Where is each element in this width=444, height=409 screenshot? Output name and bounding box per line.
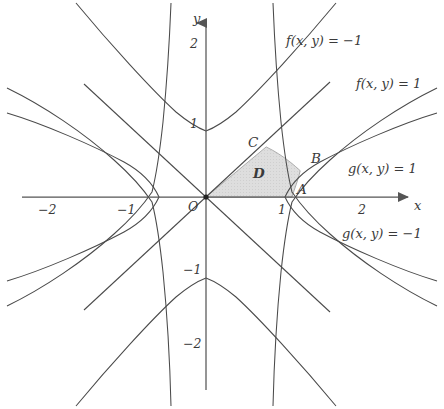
curve-label-g-equals-1: g(x, y) = 1 bbox=[348, 161, 417, 176]
point-label-a: A bbox=[297, 181, 307, 197]
figure-canvas bbox=[0, 0, 444, 409]
x-tick-1: 1 bbox=[278, 202, 286, 217]
x-axis-label: x bbox=[414, 198, 421, 213]
hyperbola-figure: x y O −2 −1 1 2 2 1 −1 −2 f(x, y) = −1 f… bbox=[0, 0, 444, 409]
y-axis-label: y bbox=[193, 11, 200, 26]
y-tick-minus-2: −2 bbox=[183, 336, 201, 351]
curve-label-f-equals-1: f(x, y) = 1 bbox=[356, 76, 421, 91]
region-label-d: D bbox=[253, 165, 265, 181]
x-tick-minus-1: −1 bbox=[117, 202, 135, 217]
curve-f-equals-1-lower-left bbox=[7, 3, 171, 306]
point-label-c: C bbox=[248, 134, 258, 150]
origin-dot bbox=[203, 194, 208, 199]
point-label-b: B bbox=[311, 150, 321, 166]
curve-label-g-equals-minus-1: g(x, y) = −1 bbox=[342, 226, 422, 241]
curve-f-equals-minus-1-upper-left bbox=[7, 88, 171, 406]
x-tick-2: 2 bbox=[358, 202, 366, 217]
x-tick-minus-2: −2 bbox=[38, 202, 56, 217]
curve-f-equals-1-upper-right bbox=[273, 88, 437, 406]
origin-label: O bbox=[188, 199, 198, 214]
y-tick-minus-1: −1 bbox=[183, 262, 201, 277]
curve-f-equals-minus-1-lower-right bbox=[273, 3, 437, 306]
y-tick-2: 2 bbox=[190, 36, 198, 51]
curve-label-f-equals-minus-1: f(x, y) = −1 bbox=[286, 33, 362, 48]
y-tick-1: 1 bbox=[190, 116, 198, 131]
